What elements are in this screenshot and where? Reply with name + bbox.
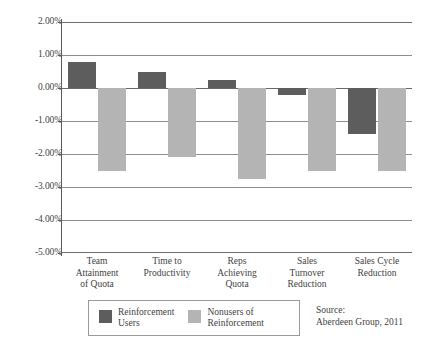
y-axis-tick-label: 2.00%	[4, 17, 62, 27]
bars-layer	[62, 22, 412, 253]
bar	[278, 88, 306, 95]
legend-label: Reinforcement Users	[118, 307, 174, 329]
x-axis-label-line: Time to	[132, 256, 202, 268]
y-axis-tick-label: 1.00%	[4, 50, 62, 60]
legend-entry[interactable]: Reinforcement Users	[99, 307, 174, 329]
x-axis-label-line: Achieving	[202, 268, 272, 280]
bar	[378, 88, 406, 171]
chart-axes	[62, 22, 412, 253]
bar	[138, 72, 166, 89]
y-axis-tick-mark	[58, 154, 62, 155]
x-axis-label-line: Reduction	[272, 279, 342, 291]
y-axis-tick-label: -5.00%	[4, 248, 62, 258]
x-axis-category-label: SalesTurnoverReduction	[272, 256, 342, 291]
y-axis-tick-mark	[58, 55, 62, 56]
legend: Reinforcement UsersNonusers of Reinforce…	[88, 300, 300, 336]
legend-row: Reinforcement UsersNonusers of Reinforce…	[0, 298, 433, 342]
y-axis-tick-label: -4.00%	[4, 215, 62, 225]
x-axis-label-line: of Quota	[62, 279, 132, 291]
bar	[238, 88, 266, 179]
x-axis-category-label: RepsAchievingQuota	[202, 256, 272, 291]
y-axis-tick-label: -3.00%	[4, 182, 62, 192]
plot-area: 2.00%1.00%0.00%-1.00%-2.00%-3.00%-4.00%-…	[0, 0, 433, 300]
x-axis-label-line: Sales Cycle	[342, 256, 412, 268]
x-axis-label-line: Team	[62, 256, 132, 268]
x-axis-category-label: TeamAttainmentof Quota	[62, 256, 132, 291]
x-axis-category-labels: TeamAttainmentof QuotaTime toProductivit…	[62, 256, 412, 300]
x-axis-label-line: Sales	[272, 256, 342, 268]
y-axis-tick-mark	[58, 253, 62, 254]
bar	[98, 88, 126, 171]
x-axis-label-line: Productivity	[132, 268, 202, 280]
y-axis-tick-mark	[58, 121, 62, 122]
y-axis-tick-mark	[58, 187, 62, 188]
x-axis-label-line: Turnover	[272, 268, 342, 280]
bar	[68, 62, 96, 88]
legend-swatch-dark	[99, 310, 112, 323]
legend-swatch-light	[188, 310, 201, 323]
bar	[308, 88, 336, 171]
x-axis-category-label: Time toProductivity	[132, 256, 202, 279]
bar	[168, 88, 196, 157]
y-axis-tick-labels: 2.00%1.00%0.00%-1.00%-2.00%-3.00%-4.00%-…	[0, 0, 62, 300]
y-axis-tick-mark	[58, 22, 62, 23]
bar-chart-figure: 2.00%1.00%0.00%-1.00%-2.00%-3.00%-4.00%-…	[0, 0, 433, 342]
bar	[348, 88, 376, 134]
y-axis-tick-mark	[58, 88, 62, 89]
legend-label: Nonusers of Reinforcement	[207, 307, 263, 329]
bar	[208, 80, 236, 88]
x-axis-label-line: Attainment	[62, 268, 132, 280]
y-axis-tick-label: -2.00%	[4, 149, 62, 159]
x-axis-label-line: Reduction	[342, 268, 412, 280]
y-axis-tick-mark	[58, 220, 62, 221]
x-axis-label-line: Quota	[202, 279, 272, 291]
y-axis-tick-label: -1.00%	[4, 116, 62, 126]
source-note: Source: Aberdeen Group, 2011	[316, 305, 403, 328]
legend-entry[interactable]: Nonusers of Reinforcement	[188, 307, 263, 329]
x-axis-category-label: Sales CycleReduction	[342, 256, 412, 279]
x-axis-label-line: Reps	[202, 256, 272, 268]
y-axis-tick-label: 0.00%	[4, 83, 62, 93]
